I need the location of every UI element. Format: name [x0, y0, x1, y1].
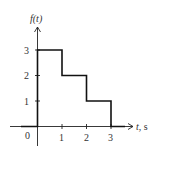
x-axis-label: t, s — [136, 121, 148, 132]
x-axis-unit: , s — [139, 121, 148, 132]
y-axis-label: f(t) — [30, 13, 43, 25]
step-function-line — [21, 50, 125, 127]
x-tick-label-3: 3 — [108, 132, 113, 143]
y-tick-label-1: 1 — [24, 96, 29, 107]
step-function-chart: f(t) 3 2 1 0 1 2 3 t, s — [0, 0, 169, 169]
origin-label: 0 — [25, 130, 30, 141]
x-tick-label-2: 2 — [84, 132, 89, 143]
x-tick-label-1: 1 — [59, 132, 64, 143]
y-tick-label-3: 3 — [24, 45, 29, 56]
y-tick-label-2: 2 — [24, 70, 29, 81]
